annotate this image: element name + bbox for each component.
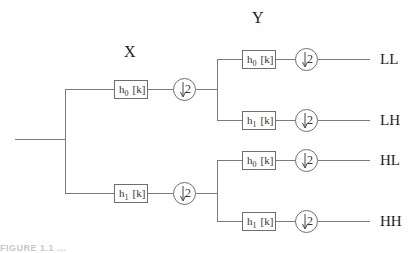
filter-h1-hh: h1[k] xyxy=(242,212,276,231)
stage-label-y: Y xyxy=(252,9,264,27)
filter-subscript: 1 xyxy=(253,120,257,129)
stage-label-x: X xyxy=(124,43,136,61)
split-level2-bottom xyxy=(217,160,218,222)
output-label-ll: LL xyxy=(380,51,398,68)
wire xyxy=(196,193,217,194)
downsample-hh: 2 xyxy=(295,210,318,233)
wire xyxy=(276,160,296,161)
wire xyxy=(148,89,174,90)
output-label-hh: HH xyxy=(380,213,402,230)
input-line xyxy=(15,139,66,140)
filter-subscript: 0 xyxy=(253,160,257,169)
wire xyxy=(276,120,296,121)
output-line-ll xyxy=(318,59,370,60)
wire xyxy=(217,59,243,60)
downsample-factor: 2 xyxy=(185,185,191,202)
branch-l1-top-in xyxy=(65,89,115,90)
output-label-hl: HL xyxy=(380,152,400,169)
split-level1 xyxy=(65,89,66,193)
filter-h0-ll: h0[k] xyxy=(242,50,276,69)
downsample-lh: 2 xyxy=(295,109,318,132)
figure-caption: FIGURE 1.1 ... xyxy=(0,243,66,253)
output-line-lh xyxy=(318,120,370,121)
branch-l1-bottom-in xyxy=(65,193,115,194)
filter-arg: [k] xyxy=(261,154,274,166)
output-label-lh: LH xyxy=(380,112,400,129)
wire xyxy=(148,193,174,194)
downsample-hl: 2 xyxy=(295,149,318,172)
filter-arg: [k] xyxy=(133,83,146,95)
filter-h1-lh: h1[k] xyxy=(242,111,276,130)
downsample-l1-bottom: 2 xyxy=(173,182,196,205)
downsample-ll: 2 xyxy=(295,48,318,71)
wire xyxy=(276,59,296,60)
filter-subscript: 1 xyxy=(253,221,257,230)
downsample-factor: 2 xyxy=(307,112,313,129)
wire xyxy=(217,221,243,222)
downsample-factor: 2 xyxy=(185,81,191,98)
filter-arg: [k] xyxy=(261,215,274,227)
filter-h0-hl: h0[k] xyxy=(242,151,276,170)
filter-subscript: 0 xyxy=(125,89,129,98)
split-level2-top xyxy=(217,59,218,121)
downsample-factor: 2 xyxy=(307,213,313,230)
filter-h0-level1: h0[k] xyxy=(114,80,148,99)
wire xyxy=(196,89,217,90)
filter-subscript: 1 xyxy=(125,193,129,202)
output-line-hh xyxy=(318,221,370,222)
filter-subscript: 0 xyxy=(253,59,257,68)
output-line-hl xyxy=(318,160,370,161)
downsample-factor: 2 xyxy=(307,152,313,169)
wire xyxy=(217,120,243,121)
downsample-factor: 2 xyxy=(307,51,313,68)
wire xyxy=(217,160,243,161)
filter-arg: [k] xyxy=(261,53,274,65)
filter-h1-level1: h1[k] xyxy=(114,184,148,203)
filter-arg: [k] xyxy=(133,187,146,199)
downsample-l1-top: 2 xyxy=(173,78,196,101)
wire xyxy=(276,221,296,222)
filter-arg: [k] xyxy=(261,114,274,126)
